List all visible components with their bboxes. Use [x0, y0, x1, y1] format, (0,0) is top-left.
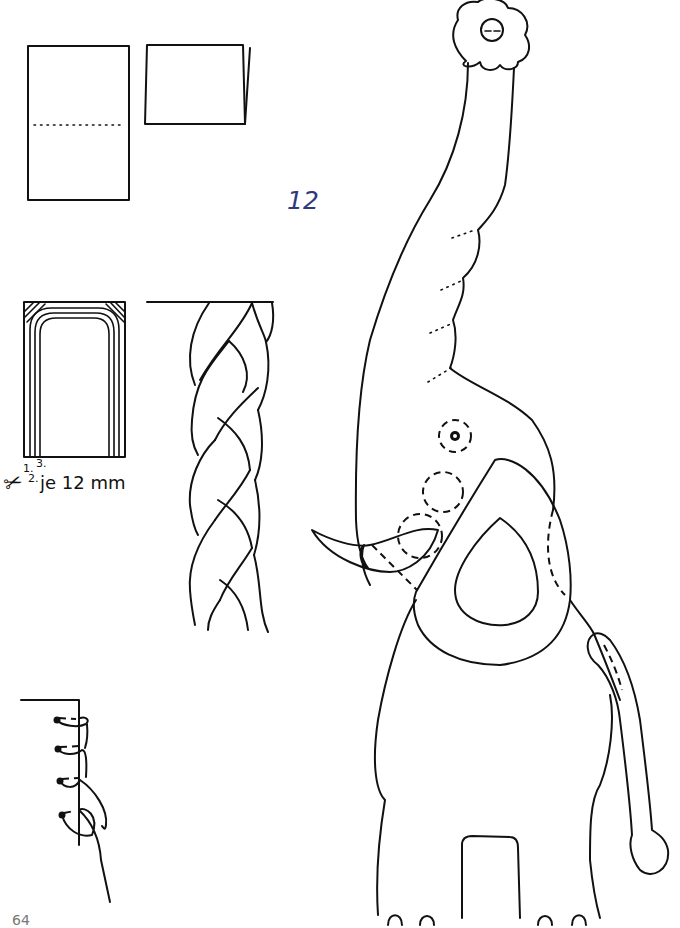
craft-instruction-page: 12 ✂ 1. 2. 3. je 12 mm 64 — [0, 0, 680, 928]
strip-label-3: 3. — [36, 457, 47, 470]
elephant-figure — [312, 0, 668, 925]
paper-sheet-figure — [28, 46, 129, 200]
flower — [453, 0, 529, 70]
illustration-canvas — [0, 0, 680, 928]
stitching-figure — [21, 700, 110, 902]
strip-label-2: 2. — [28, 472, 39, 485]
folded-card-figure — [145, 45, 250, 124]
step-number: 12 — [287, 186, 319, 215]
measurement-label: je 12 mm — [40, 472, 126, 493]
page-number: 64 — [12, 912, 30, 928]
cutting-template-figure — [24, 302, 125, 457]
braid-figure — [147, 302, 273, 632]
